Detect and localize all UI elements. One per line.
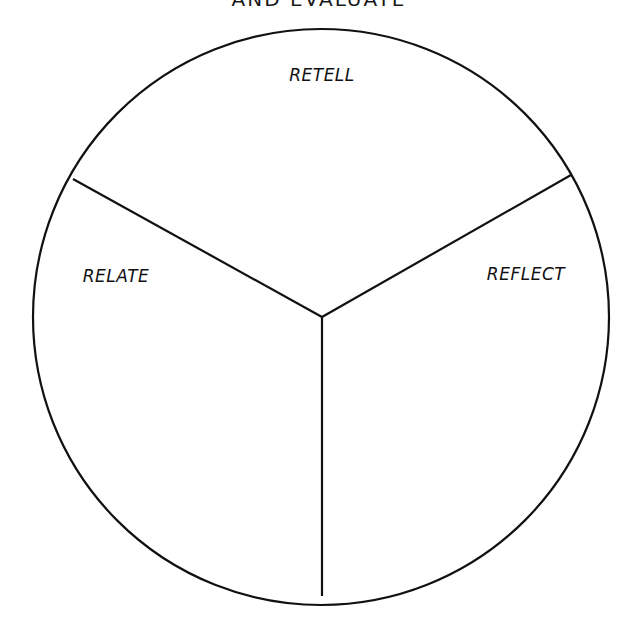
section-label-retell: RETELL [289, 65, 355, 85]
section-label-relate: RELATE [83, 266, 150, 286]
spoke-upper-right [322, 175, 571, 317]
three-section-circle-diagram: RETELL RELATE REFLECT [0, 0, 638, 632]
spoke-upper-left [73, 179, 322, 317]
section-label-reflect: REFLECT [487, 264, 566, 284]
